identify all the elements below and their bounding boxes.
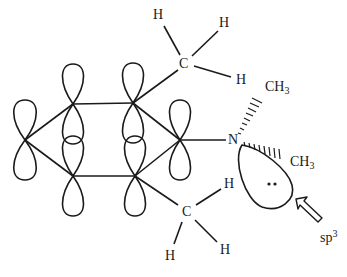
bottom-methyl-h3: H — [220, 243, 230, 257]
hybridization-base: sp — [320, 230, 332, 245]
orbital-diagram: H H C H N CH3 CH3 H C H H sp3 — [0, 0, 347, 277]
lone-pair-dots — [267, 182, 276, 185]
n-methyl-lower-label: CH3 — [290, 155, 314, 171]
top-methyl-h1: H — [153, 8, 163, 22]
top-methyl-h2: H — [219, 16, 229, 30]
n-methyl-lower-base: CH — [290, 154, 309, 169]
n-methyl-upper-sub: 3 — [284, 85, 289, 96]
bottom-methyl-h2: H — [165, 249, 175, 263]
n-methyl-upper-base: CH — [265, 79, 284, 94]
top-methyl-carbon: C — [179, 57, 188, 71]
hybridization-sup: 3 — [332, 228, 337, 239]
bottom-methyl-h1: H — [224, 177, 234, 191]
n-methyl-upper-label: CH3 — [265, 80, 289, 96]
hybridization-label: sp3 — [320, 229, 337, 245]
ring-bonds — [25, 103, 180, 176]
hashed-wedge-bonds — [238, 98, 280, 159]
p-orbitals — [14, 63, 191, 216]
sp3-lone-pair-orbital — [239, 145, 293, 208]
nitrogen-label: N — [228, 133, 238, 147]
top-methyl-h3: H — [236, 73, 246, 87]
arrow-icon — [296, 197, 322, 222]
bottom-methyl-carbon: C — [182, 205, 191, 219]
n-methyl-lower-sub: 3 — [309, 160, 314, 171]
diagram-graphics — [0, 0, 347, 277]
